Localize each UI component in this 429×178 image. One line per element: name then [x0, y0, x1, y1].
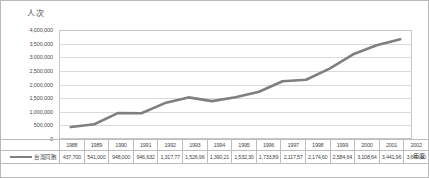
table-cell-year: 2001 — [379, 140, 404, 150]
series-line-taiwan — [71, 39, 400, 127]
table-cell-year: 1989 — [84, 140, 109, 150]
legend-label: 台灣同胞 — [34, 153, 57, 161]
table-corner-cell — [1, 140, 59, 150]
y-axis-tick-label: 1,500,000 — [29, 95, 53, 101]
y-axis-tick-label: 3,500,000 — [29, 41, 53, 47]
table-cell-year: 1998 — [305, 140, 330, 150]
table-cell-value: 948,000 — [108, 151, 133, 163]
y-axis-tick-label: 3,000,000 — [29, 54, 53, 60]
table-cell-value: 1,733,89 — [256, 151, 281, 163]
table-cell-value: 2,174,60 — [305, 151, 330, 163]
table-cell-value: 437,700 — [59, 151, 84, 163]
table-cell-year: 1988 — [59, 140, 84, 150]
y-axis-tick-labels: 4,000,0003,500,0003,000,0002,500,0002,00… — [1, 30, 56, 139]
chart-figure: 人次 年度 4,000,0003,500,0003,000,0002,500,0… — [0, 0, 429, 178]
table-cell-year: 1997 — [280, 140, 305, 150]
y-axis-tick-label: 2,000,000 — [29, 82, 53, 88]
y-axis-tick-label: 4,000,000 — [29, 27, 53, 33]
y-axis-tick-label: 1,000,000 — [29, 109, 53, 115]
table-cell-year: 1990 — [108, 140, 133, 150]
table-cell-year: 1992 — [157, 140, 182, 150]
table-cell-year: 1999 — [330, 140, 355, 150]
table-cell-year: 1991 — [133, 140, 158, 150]
y-axis-label: 人次 — [27, 7, 44, 18]
table-cell-value: 2,117,57 — [280, 151, 305, 163]
table-cell-value: 1,526,96 — [182, 151, 207, 163]
table-cell-year: 1993 — [182, 140, 207, 150]
table-cell-year: 2002 — [403, 140, 428, 150]
legend-entry: 台灣同胞 — [1, 151, 59, 163]
table-cell-value: 3,441,96 — [379, 151, 404, 163]
plot-area-wrapper — [59, 30, 412, 139]
table-cell-value: 946,632 — [133, 151, 158, 163]
data-table: 1988198919901991199219931994199519961997… — [1, 139, 428, 177]
table-cell-value: 3,660,60 — [403, 151, 428, 163]
table-cell-value: 1,532,30 — [231, 151, 256, 163]
table-cell-value: 2,584,64 — [330, 151, 355, 163]
table-row-years: 1988198919901991199219931994199519961997… — [1, 139, 428, 151]
table-row-values: 台灣同胞 437,700541,000948,000946,6321,317,7… — [1, 151, 428, 164]
legend-line-swatch-icon — [10, 156, 32, 159]
table-cell-value: 1,390,21 — [207, 151, 232, 163]
y-axis-tick-label: 2,500,000 — [29, 68, 53, 74]
table-cell-year: 2000 — [354, 140, 379, 150]
series-line-chart — [59, 30, 412, 139]
y-axis-tick-label: 500,000 — [34, 122, 53, 128]
table-cell-value: 541,000 — [84, 151, 109, 163]
table-cell-year: 1996 — [256, 140, 281, 150]
table-cell-year: 1994 — [207, 140, 232, 150]
table-cell-value: 3,108,64 — [354, 151, 379, 163]
table-cell-year: 1995 — [231, 140, 256, 150]
table-cell-value: 1,317,77 — [157, 151, 182, 163]
